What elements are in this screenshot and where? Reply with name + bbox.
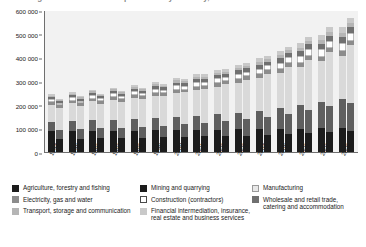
stacked-bar[interactable] (339, 27, 346, 153)
y-axis-tick: 300 000 (16, 79, 38, 86)
bar-group (128, 11, 149, 153)
x-axis-cell: 2000 (170, 153, 191, 179)
bar-segment (97, 128, 104, 138)
x-axis-cell: 1995 (66, 153, 87, 179)
bar-segment (318, 61, 325, 102)
stacked-bar[interactable] (222, 69, 229, 153)
legend-swatch-icon (252, 196, 259, 203)
stacked-bar[interactable] (214, 70, 221, 153)
chart-title: Figure 2: Income and expenditure by indu… (30, 0, 251, 2)
bar-segment (89, 101, 96, 120)
legend-item[interactable]: Construction (contractors) (140, 196, 252, 204)
stacked-bar[interactable] (305, 37, 312, 153)
bar-segment (277, 73, 284, 108)
bar-segment (48, 105, 55, 122)
legend-column: Mining and quarryingConstruction (contra… (140, 184, 252, 244)
legend-label: Manufacturing (263, 184, 303, 191)
legend-swatch-icon (140, 196, 147, 203)
stacked-bar[interactable] (235, 65, 242, 153)
stacked-bar[interactable] (256, 58, 263, 153)
bar-segment (48, 122, 55, 131)
legend-item[interactable]: Financial intermediation, insurance, rea… (140, 207, 252, 222)
bar-group (253, 11, 274, 153)
x-axis-cell: 2002 (211, 153, 232, 179)
bar-segment (110, 120, 117, 131)
x-axis-cell: 1997 (107, 153, 128, 179)
bar-segment (222, 121, 229, 136)
stacked-bar[interactable] (277, 51, 284, 153)
bar-segment (318, 102, 325, 129)
bar-segment (339, 43, 346, 52)
legend-swatch-icon (140, 185, 147, 192)
stacked-bar[interactable] (243, 63, 250, 153)
legend-item[interactable]: Wholesale and retail trade, catering and… (252, 196, 358, 211)
bar-group (170, 11, 191, 153)
y-axis-tick: 500 000 (16, 31, 38, 38)
bar-segment (201, 89, 208, 123)
legend-swatch-icon (12, 208, 19, 215)
bar-segment (152, 96, 159, 119)
bar-segment (347, 33, 354, 41)
legend-swatch-icon (12, 185, 19, 192)
bar-segment (97, 104, 104, 129)
y-axis-tick: 100 000 (16, 126, 38, 133)
bar-segment (214, 114, 221, 129)
bar-segment (297, 105, 304, 129)
bar-segment (235, 113, 242, 130)
stacked-bar[interactable] (326, 27, 333, 153)
bar-segment (339, 99, 346, 128)
legend-item[interactable]: Manufacturing (252, 184, 358, 192)
bar-segment (256, 111, 263, 129)
bar-segment (139, 127, 146, 138)
bar-segment (347, 103, 354, 131)
bar-segment (160, 126, 167, 138)
bar-segment (326, 52, 333, 106)
legend-item[interactable]: Transport, storage and communication (12, 207, 140, 215)
bar-segment (131, 119, 138, 130)
bar-segment (56, 130, 63, 139)
stacked-bar[interactable] (347, 18, 354, 153)
bar-segment (201, 123, 208, 137)
bar-segment (243, 80, 250, 120)
legend-label: Electricity, gas and water (23, 196, 93, 203)
legend-label: Financial intermediation, insurance, rea… (151, 207, 252, 222)
stacked-bar[interactable] (201, 74, 208, 153)
bar-segment (285, 67, 292, 113)
bar-segment (173, 117, 180, 130)
legend-column: Agriculture, forestry and fishingElectri… (12, 184, 140, 244)
x-axis-labels: 1994199519961997199819992000200120022003… (44, 153, 358, 179)
legend-item[interactable]: Agriculture, forestry and fishing (12, 184, 140, 192)
bar-segment (193, 90, 200, 116)
bar-segment (77, 129, 84, 138)
bar-group (232, 11, 253, 153)
legend-column: ManufacturingWholesale and retail trade,… (252, 184, 358, 244)
bar-segment (222, 84, 229, 121)
bar-group (66, 11, 87, 153)
bar-segment (152, 118, 159, 130)
stacked-bar[interactable] (181, 79, 188, 153)
bar-segment (193, 116, 200, 130)
stacked-bar[interactable] (193, 74, 200, 153)
bar-segment (264, 117, 271, 135)
bar-segment (69, 121, 76, 131)
legend-label: Wholesale and retail trade, catering and… (263, 196, 358, 211)
bar-segment (305, 49, 312, 56)
x-axis-cell: 1994 (45, 153, 66, 179)
legend-swatch-icon (140, 208, 147, 215)
y-axis-tick: 400 000 (16, 55, 38, 62)
legend-item[interactable]: Mining and quarrying (140, 184, 252, 192)
legend-swatch-icon (252, 185, 259, 192)
bar-segment (181, 92, 188, 124)
x-axis-cell: 2003 (232, 153, 253, 179)
stacked-bar[interactable] (297, 43, 304, 153)
stacked-bar[interactable] (318, 35, 325, 153)
bar-segment (160, 96, 167, 126)
bar-group (149, 11, 170, 153)
stacked-bar[interactable] (264, 56, 271, 153)
legend-item[interactable]: Electricity, gas and water (12, 196, 140, 204)
bar-segment (305, 60, 312, 110)
bar-segment (277, 108, 284, 129)
stacked-bar[interactable] (285, 47, 292, 153)
x-axis-cell: 2005 (274, 153, 295, 179)
bar-segment (318, 49, 325, 57)
